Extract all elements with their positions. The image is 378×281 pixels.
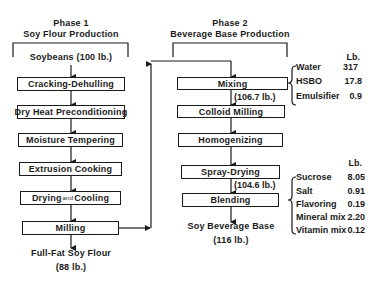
ingredient-value: 17.8 (330, 76, 362, 86)
step-milling: Milling (22, 221, 119, 235)
step-dry-heat-preconditioning: Dry Heat Preconditioning (17, 105, 125, 119)
phase1-input: Soybeans (100 lb.) (30, 52, 113, 62)
blending-unit-label: Lb. (340, 158, 362, 168)
ingredient-value: 0.19 (340, 199, 365, 209)
step-moisture-tempering: Moisture Tempering (18, 133, 123, 147)
phase2-title: Phase 2 (212, 18, 247, 28)
and-label: and (63, 195, 74, 201)
cooling-label: Cooling (74, 193, 109, 203)
phase1-subtitle: Soy Flour Production (23, 29, 119, 39)
blending-brace (288, 177, 296, 234)
ingredient-value: 0.91 (340, 186, 365, 196)
step-mixing: Mixing (177, 77, 288, 90)
phase1-title: Phase 1 (53, 18, 88, 28)
mixing-unit-label: Lb. (338, 52, 360, 62)
ingredient-name: Vitamin mix (296, 225, 346, 235)
drying-label: Drying (32, 193, 62, 203)
phase2-output-weight: (116 lb.) (213, 235, 248, 245)
ingredient-value: 0.9 (330, 91, 362, 101)
ingredient-value: 0.12 (340, 225, 365, 235)
step-spray-drying: Spray-Drying (181, 165, 280, 179)
phase1-output-weight: (88 lb.) (56, 262, 87, 272)
phase1-output: Full-Fat Soy Flour (31, 248, 111, 258)
ingredient-name: Salt (296, 186, 313, 196)
phase2-bracket (173, 43, 287, 57)
ingredient-name: Sucrose (296, 172, 332, 182)
phase2-subtitle: Beverage Base Production (170, 29, 289, 39)
spray-output-weight: (104.6 lb.) (234, 180, 276, 190)
mixing-output-weight: (106.7 lb.) (234, 92, 276, 102)
ingredient-name: Water (296, 62, 321, 72)
ingredient-value: 317 (330, 62, 358, 72)
step-extrusion-cooking: Extrusion Cooking (19, 162, 122, 176)
ingredient-name: Mineral mix (296, 212, 346, 222)
step-cracking-dehulling: Cracking-Dehulling (17, 77, 125, 91)
ingredient-name: Flavoring (296, 199, 337, 209)
step-drying-cooling: Drying and Cooling (20, 191, 121, 205)
step-blending: Blending (182, 193, 279, 207)
ingredient-value: 8.05 (340, 172, 365, 182)
mixing-brace (288, 66, 296, 105)
ingredient-name: HSBO (296, 76, 322, 86)
phase2-output: Soy Beverage Base (188, 221, 275, 231)
step-homogenizing: Homogenizing (178, 133, 283, 147)
ingredient-value: 2.20 (340, 212, 365, 222)
step-colloid-milling: Colloid Milling (177, 105, 285, 118)
